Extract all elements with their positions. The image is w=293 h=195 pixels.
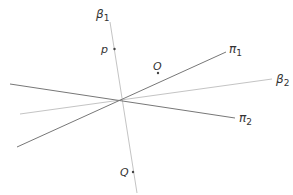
label-pi1: π1	[229, 42, 242, 58]
label-pi1-subscript: 1	[236, 48, 242, 58]
label-beta1-subscript: 1	[104, 13, 110, 23]
label-beta2: β2	[275, 72, 289, 88]
line-beta2	[20, 79, 272, 114]
line-pi1	[17, 52, 226, 147]
label-Q: Q	[120, 166, 129, 179]
label-beta2-symbol: β	[275, 72, 284, 86]
diagram-canvas: β1 π1 β2 π2 p O Q	[0, 0, 293, 195]
label-beta1-symbol: β	[95, 7, 104, 21]
label-beta1: β1	[95, 7, 109, 23]
label-beta2-subscript: 2	[284, 78, 290, 88]
label-pi2-subscript: 2	[246, 117, 252, 127]
point-p	[113, 48, 115, 50]
label-p: p	[100, 43, 108, 56]
label-pi2: π2	[239, 111, 252, 127]
label-O: O	[153, 60, 162, 73]
point-Q	[132, 171, 134, 173]
